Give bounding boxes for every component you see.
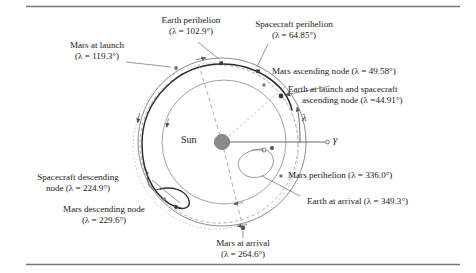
- label-mars-descending-node-line1: Mars descending node: [38, 204, 170, 215]
- label-mars-perihelion-line1: Mars perihelion (λ = 336.0°): [288, 170, 392, 181]
- label-earth-at-arrival: Earth at arrival (λ = 349.3°): [307, 196, 408, 207]
- marker-earth-perihelion: [219, 61, 223, 65]
- label-mars-at-launch: Mars at launch (λ = 119.3°): [48, 40, 146, 62]
- label-earth-perihelion: Earth perihelion (λ = 102.9°): [143, 15, 239, 37]
- lambda-angle-label: λ: [302, 112, 306, 123]
- marker-earth-at-arrival: [270, 146, 274, 150]
- sun-label: Sun: [181, 134, 197, 145]
- marker-mars-perihelion: [279, 174, 282, 177]
- earth-orbit-direction-arrow: [167, 118, 169, 128]
- label-spacecraft-descending-node-line1: Spacecraft descending: [8, 172, 148, 183]
- label-mars-at-launch-line1: Mars at launch: [48, 40, 146, 51]
- marker-mars-at-arrival: [241, 226, 245, 230]
- marker-spacecraft-descending-node: [174, 205, 178, 209]
- label-earth-perihelion-line2: (λ = 102.9°): [143, 26, 239, 37]
- sun-body: [214, 134, 229, 149]
- label-mars-ascending-node-line1: Mars ascending node (λ = 49.58°): [272, 66, 396, 77]
- label-mars-at-arrival: Mars at arrival (λ = 264.6°): [184, 238, 302, 260]
- label-mars-at-arrival-line2: (λ = 264.6°): [184, 249, 302, 260]
- label-spacecraft-perihelion: Spacecraft perihelion (λ = 64.85°): [236, 19, 352, 41]
- marker-mars-at-launch: [174, 66, 178, 70]
- label-earth-at-arrival-line1: Earth at arrival (λ = 349.3°): [307, 196, 408, 207]
- label-mars-descending-node-line2: (λ = 229.6°): [38, 215, 170, 226]
- marker-spacecraft-perihelion: [256, 69, 260, 73]
- marker-mars-ascending-node: [262, 83, 265, 86]
- perihelion-line-dotted: [222, 86, 286, 142]
- vernal-equinox-endpoint: [326, 140, 330, 144]
- leader-mars-at-launch: [126, 62, 171, 67]
- label-earth-launch-sc-ascending-node-line1: Earth at launch and spacecraft: [288, 84, 403, 95]
- line-of-apsides-dashed: [222, 142, 243, 228]
- label-earth-launch-sc-ascending-node: Earth at launch and spacecraft ascending…: [288, 84, 403, 106]
- label-earth-perihelion-line1: Earth perihelion: [143, 15, 239, 26]
- label-spacecraft-descending-node-line2: node (λ = 224.9°): [8, 183, 148, 194]
- marker-mars-descending-node: [162, 197, 166, 201]
- mars-orbit-direction-arrow: [196, 58, 206, 60]
- label-mars-descending-node: Mars descending node (λ = 229.6°): [38, 204, 170, 226]
- label-mars-ascending-node: Mars ascending node (λ = 49.58°): [272, 66, 396, 77]
- vernal-equinox-label: γ: [333, 133, 337, 145]
- leader-spacecraft-perihelion: [257, 44, 268, 67]
- label-spacecraft-descending-node: Spacecraft descending node (λ = 224.9°): [8, 172, 148, 194]
- label-spacecraft-perihelion-line1: Spacecraft perihelion: [236, 19, 352, 30]
- spacecraft-trajectory: [142, 64, 292, 207]
- label-mars-at-launch-line2: (λ = 119.3°): [48, 51, 146, 62]
- label-earth-launch-sc-ascending-node-line2: ascending node (λ =44.91°): [288, 95, 403, 106]
- label-spacecraft-perihelion-line2: (λ = 64.85°): [236, 30, 352, 41]
- leader-earth-perihelion: [198, 42, 219, 59]
- figure-root: Sun γ λ Mars at launch (λ = 119.3°) Eart…: [0, 0, 476, 273]
- marker-earth-launch-sc-ascending-node: [279, 94, 284, 99]
- line-of-nodes-dashed: [198, 62, 222, 142]
- label-mars-at-arrival-line1: Mars at arrival: [184, 238, 302, 249]
- label-mars-perihelion: Mars perihelion (λ = 336.0°): [288, 170, 392, 181]
- departure-loop: [238, 149, 273, 178]
